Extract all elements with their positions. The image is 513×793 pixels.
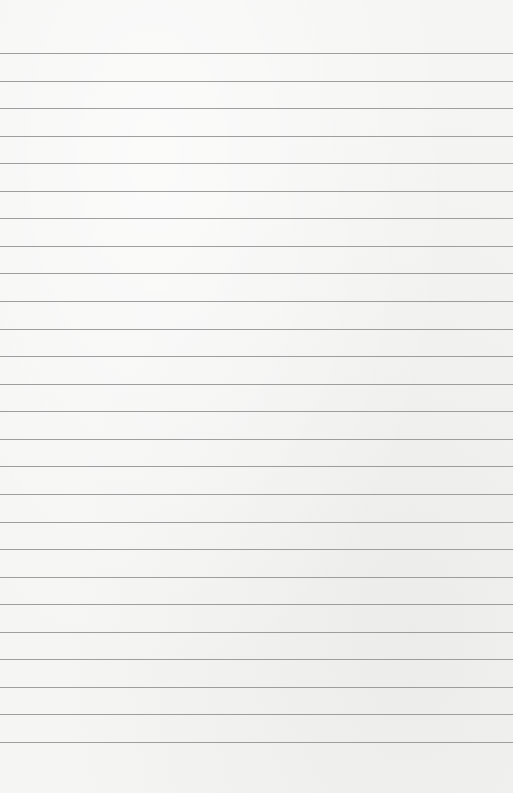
ruled-line xyxy=(0,494,513,495)
ruled-line xyxy=(0,81,513,82)
ruled-line xyxy=(0,246,513,247)
ruled-line xyxy=(0,604,513,605)
lined-paper-sheet xyxy=(0,0,513,793)
ruled-line xyxy=(0,577,513,578)
ruled-line xyxy=(0,742,513,743)
ruled-line xyxy=(0,301,513,302)
ruled-line xyxy=(0,549,513,550)
ruled-line xyxy=(0,163,513,164)
ruled-line xyxy=(0,632,513,633)
ruled-line xyxy=(0,659,513,660)
ruled-line xyxy=(0,522,513,523)
ruled-line xyxy=(0,218,513,219)
ruled-line xyxy=(0,356,513,357)
ruled-line xyxy=(0,687,513,688)
ruled-line xyxy=(0,411,513,412)
ruled-line xyxy=(0,384,513,385)
ruled-line xyxy=(0,191,513,192)
ruled-line xyxy=(0,466,513,467)
ruled-line xyxy=(0,53,513,54)
ruled-line xyxy=(0,273,513,274)
ruled-line xyxy=(0,329,513,330)
ruled-line xyxy=(0,714,513,715)
ruled-line xyxy=(0,108,513,109)
ruled-line xyxy=(0,439,513,440)
ruled-line xyxy=(0,136,513,137)
